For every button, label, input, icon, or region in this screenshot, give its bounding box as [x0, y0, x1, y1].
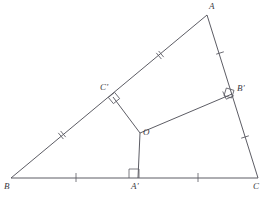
segment-bisector-ocp — [113, 97, 140, 133]
triangle-sides — [11, 15, 258, 178]
segment-bisector-obp — [140, 94, 232, 133]
vertex-label-c: C — [253, 182, 259, 191]
tick-a-to-bp — [216, 52, 224, 54]
vertex-label-a-prime: A' — [131, 182, 139, 191]
congruence-ticks — [58, 51, 249, 182]
right-angle-at-b-prime-box — [224, 88, 234, 98]
vertex-label-o: O — [143, 128, 150, 137]
vertex-label-a: A — [209, 2, 215, 11]
vertex-label-b: B — [4, 182, 10, 191]
vertex-label-c-prime: C' — [100, 83, 108, 92]
geometry-canvas — [0, 0, 269, 202]
perpendicular-bisectors — [113, 94, 232, 178]
right-angle-at-a-prime-icon — [129, 169, 139, 178]
vertex-label-b-prime: B' — [237, 84, 245, 93]
geometry-figure: A B C O A' B' C' — [0, 0, 269, 202]
